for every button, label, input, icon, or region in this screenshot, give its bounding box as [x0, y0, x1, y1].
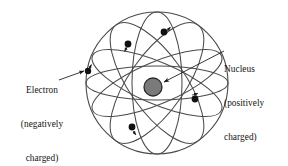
nucleus — [144, 78, 162, 96]
electron-group — [85, 27, 199, 135]
electron-upper-left — [125, 41, 132, 48]
electron-left-motion-arrow — [89, 65, 92, 70]
nucleus-label-line1: Nucleus — [224, 64, 286, 75]
electron-left — [85, 68, 91, 74]
nucleus-label: Nucleus (positively charged) — [224, 41, 286, 155]
electron-label-line1: Electron — [6, 85, 78, 96]
electron-label-line2: (negatively — [6, 119, 78, 130]
nucleus-label-line2: (positively — [224, 98, 286, 109]
electron-label-line3: charged) — [6, 153, 78, 164]
electron-top — [161, 29, 168, 36]
electron-label: Electron (negatively charged) — [6, 62, 78, 166]
electron-bottom-left — [129, 124, 136, 131]
electron-right — [192, 96, 199, 103]
nucleus-label-line3: charged) — [224, 132, 286, 143]
electron-bottom-left-motion-arrow — [133, 131, 136, 135]
